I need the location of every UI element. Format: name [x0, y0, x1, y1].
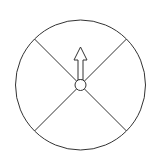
spinner-arrow: [74, 47, 87, 91]
arrow-up-icon: [74, 47, 87, 80]
spinner-diagram: [0, 0, 158, 163]
spinner-hub: [75, 80, 86, 91]
